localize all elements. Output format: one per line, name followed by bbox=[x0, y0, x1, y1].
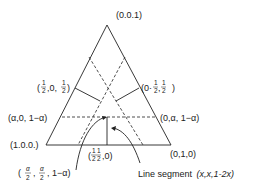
svg-text:2: 2 bbox=[92, 155, 96, 162]
svg-text:,: , bbox=[158, 83, 161, 93]
ternary-diagram: (0.0.1) (1.0.0.) (0,1,0) ( 1 2 ,0, 1 2 )… bbox=[0, 0, 259, 194]
arrow-line-segment bbox=[113, 128, 140, 163]
svg-text:1: 1 bbox=[92, 147, 96, 154]
svg-text:2: 2 bbox=[40, 174, 44, 181]
label-line-segment: Line segment (x,x,1-2x) bbox=[138, 169, 234, 179]
svg-text:2: 2 bbox=[97, 155, 101, 162]
label-right-vertex: (0,1,0) bbox=[170, 149, 196, 159]
svg-text:(: ( bbox=[88, 151, 91, 161]
label-alpha-point: ( α 2 , α 2 , 1−α) bbox=[18, 165, 70, 181]
svg-text:1: 1 bbox=[97, 147, 101, 154]
svg-text:1: 1 bbox=[62, 79, 66, 86]
svg-text:): ) bbox=[67, 83, 70, 93]
svg-text:,0): ,0) bbox=[102, 151, 113, 161]
svg-text:,: , bbox=[33, 168, 36, 178]
svg-text:1: 1 bbox=[42, 79, 46, 86]
svg-text:(: ( bbox=[37, 83, 40, 93]
svg-text:(: ( bbox=[18, 168, 21, 178]
svg-text:, 1−α): , 1−α) bbox=[47, 168, 70, 178]
svg-text:): ) bbox=[172, 83, 175, 93]
svg-text:α: α bbox=[40, 165, 44, 172]
svg-text:2: 2 bbox=[42, 87, 46, 94]
solid-segment-right bbox=[116, 88, 139, 101]
svg-text:2: 2 bbox=[26, 174, 30, 181]
label-base-midpoint: ( 1 2 1 2 ,0) bbox=[88, 147, 113, 162]
label-right-midpoint: (0· 1 2 , 1 2 ) bbox=[141, 79, 175, 94]
svg-text:,0,: ,0, bbox=[47, 83, 57, 93]
svg-text:α: α bbox=[26, 165, 30, 172]
dashed-line-right bbox=[78, 57, 125, 145]
svg-text:1: 1 bbox=[162, 79, 166, 86]
arrowhead-segment bbox=[111, 126, 116, 131]
arrowhead-alpha bbox=[102, 116, 107, 120]
label-left-vertex: (1.0.0.) bbox=[10, 140, 39, 150]
solid-segment-left bbox=[75, 88, 100, 101]
svg-text:2: 2 bbox=[62, 87, 66, 94]
svg-text:(0·: (0· bbox=[141, 83, 152, 93]
label-left-midpoint: ( 1 2 ,0, 1 2 ) bbox=[37, 79, 70, 94]
svg-text:2: 2 bbox=[162, 87, 166, 94]
label-left-alpha: (α,0, 1−α) bbox=[8, 113, 47, 123]
label-top-vertex: (0.0.1) bbox=[116, 10, 142, 20]
arrow-alpha-point bbox=[76, 117, 106, 170]
label-right-alpha: (0,α, 1−α) bbox=[160, 113, 199, 123]
